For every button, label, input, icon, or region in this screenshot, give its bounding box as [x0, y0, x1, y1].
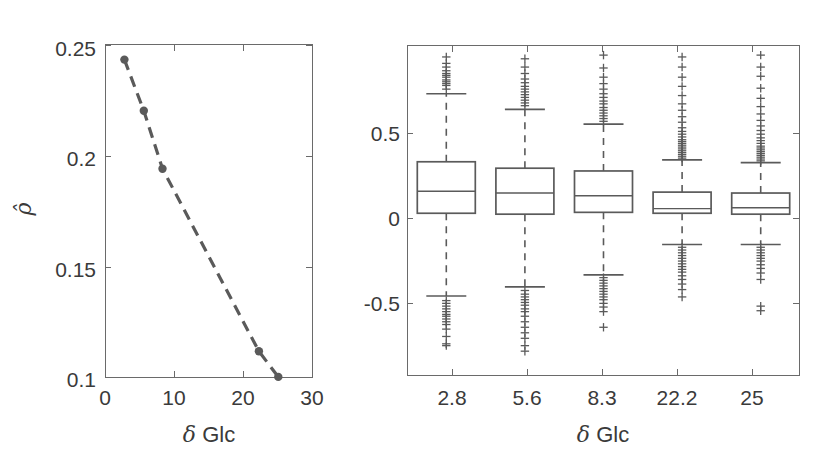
boxplot-group: [417, 51, 789, 355]
boxplot-5.6: [496, 55, 554, 356]
box-2.8: [417, 162, 475, 213]
left-series-marker-22.2: [255, 347, 263, 355]
boxplot-2.8: [417, 53, 475, 350]
boxplot-8.3: [575, 51, 633, 332]
box-25: [732, 193, 790, 214]
box-22.2: [653, 192, 711, 213]
left-series-marker-8.3: [158, 165, 166, 173]
left-series-group: [120, 55, 282, 381]
right-panel: 0.5 0 -0.5 2.8 5.6 8.3 22.2 25 δ Glc: [380, 0, 829, 464]
left-series-marker-5.6: [140, 107, 148, 115]
left-panel-data-overlay: [0, 0, 380, 464]
box-8.3: [575, 171, 633, 212]
figure-canvas: 0.25 0.2 0.15 0.1 0 10 20 30 δ Glc ρ̂: [0, 0, 829, 464]
left-panel: 0.25 0.2 0.15 0.1 0 10 20 30 δ Glc ρ̂: [0, 0, 380, 464]
boxplot-22.2: [653, 53, 711, 301]
left-series-dashed-line: [124, 60, 278, 377]
box-5.6: [496, 168, 554, 214]
left-series-marker-2.8: [120, 55, 128, 63]
left-series-marker-25: [274, 373, 282, 381]
boxplot-25: [732, 51, 790, 315]
right-panel-data-overlay: [380, 0, 829, 464]
